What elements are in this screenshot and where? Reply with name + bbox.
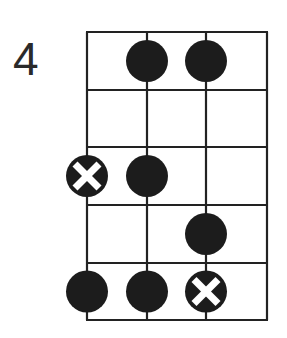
note-dot (66, 271, 108, 313)
root-note-dot (185, 271, 227, 313)
root-note-dot (66, 155, 108, 197)
note-dot (126, 40, 168, 82)
note-dot (185, 40, 227, 82)
fretboard-grid (0, 0, 287, 338)
note-dot (126, 155, 168, 197)
note-dot (185, 213, 227, 255)
note-dot (126, 271, 168, 313)
